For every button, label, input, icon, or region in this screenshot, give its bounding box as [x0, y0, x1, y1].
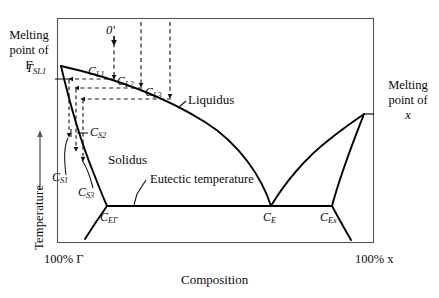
cs1-subscript: S1: [60, 176, 68, 185]
eutectic-x-subscript: Ex: [328, 216, 337, 225]
eutectic-leader-line: [137, 180, 146, 194]
melting-point-left-line1: Melting: [2, 28, 56, 43]
melting-point-right-label: Melting point of x: [378, 78, 438, 122]
eutectic-gamma-subscript: EΓ: [108, 216, 118, 225]
liquidus-label: Liquidus: [188, 92, 234, 107]
eutectic-label-leader: [134, 180, 146, 205]
cs3-base: C: [78, 185, 86, 199]
eutectic-temperature-label: Eutectic temperature: [150, 172, 254, 187]
eutectic-x-label: CEx: [320, 210, 337, 225]
cl2-subscript: L2: [125, 80, 134, 89]
cl1-subscript: L1: [96, 70, 105, 79]
cs3-leader: [82, 160, 93, 188]
tsl1-label: TSL1: [26, 61, 46, 76]
cl2-label: CL2: [117, 74, 134, 89]
cl3-label: CL3: [145, 85, 162, 100]
temperature-axis-label: Temperature: [32, 185, 47, 250]
cs2-label: CS2: [90, 125, 106, 140]
cs1-label: CS1: [52, 170, 68, 185]
start-point-label: 0′: [106, 23, 115, 38]
x-tick-left: 100% Γ: [44, 252, 84, 267]
solidus-right-curve: [332, 114, 364, 206]
cs3-subscript: S3: [86, 191, 94, 200]
cs3-label: CS3: [78, 185, 94, 200]
tsl1-base: T: [26, 61, 33, 75]
cs2-subscript: S2: [98, 131, 106, 140]
cl3-base: C: [145, 85, 153, 99]
liquidus-leader-line: [178, 101, 186, 108]
tsl1-subscript: SL1: [33, 66, 46, 76]
eutectic-label: CE: [263, 210, 276, 225]
eutectic-x-base: C: [320, 210, 328, 224]
eutectic-base: C: [263, 210, 271, 224]
melting-point-right-line2: point of: [378, 93, 438, 108]
x-tick-left-text: 100% Γ: [44, 252, 84, 266]
liquidus-right-curve: [271, 114, 364, 206]
eutectic-gamma-label: CEΓ: [100, 210, 118, 225]
cs2-base: C: [90, 125, 98, 139]
composition-axis-label: Composition: [181, 272, 248, 287]
melting-point-right-line1: Melting: [378, 78, 438, 93]
eutectic-leader-tail: [134, 194, 137, 205]
eutectic-subscript: E: [271, 216, 276, 225]
cl1-base: C: [88, 64, 96, 78]
cl3-subscript: L3: [153, 91, 162, 100]
melting-point-left-line2: point of: [2, 43, 56, 58]
x-tick-right-text: 100% x: [355, 252, 394, 266]
eutectic-gamma-base: C: [100, 210, 108, 224]
cl2-base: C: [117, 74, 125, 88]
liquidus-label-leader: [178, 101, 186, 108]
melting-point-right-line3: x: [378, 108, 438, 123]
x-tick-right: 100% x: [355, 252, 394, 267]
cl1-label: CL1: [88, 64, 105, 79]
cs1-base: C: [52, 170, 60, 184]
solidus-label: Solidus: [108, 152, 147, 167]
phase-diagram-figure: Melting point of Γ Melting point of x 0′…: [0, 0, 439, 298]
